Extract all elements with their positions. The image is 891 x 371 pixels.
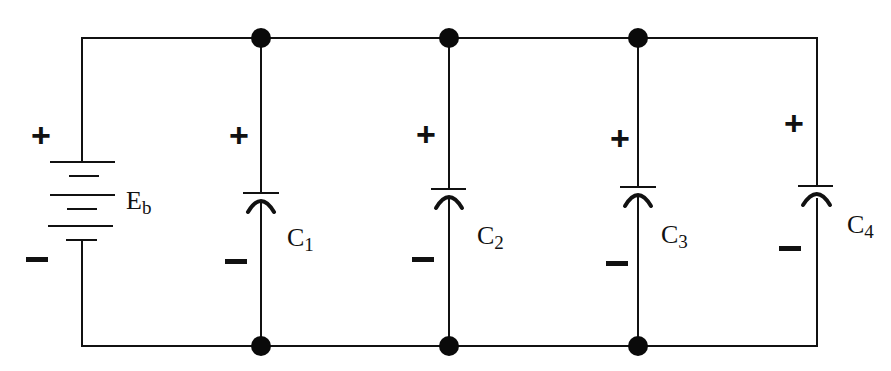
capacitor-c2-symbol [431, 38, 466, 346]
battery-plus-sign: + [31, 118, 51, 152]
c3-plus-sign: + [610, 121, 630, 155]
c2-label: C2 [477, 223, 504, 252]
c2-minus-sign [412, 257, 434, 262]
c1-minus-sign [225, 259, 247, 264]
battery-label: Eb [126, 188, 151, 217]
c2-plus-sign: + [416, 117, 436, 151]
battery-minus-sign [26, 257, 48, 262]
c3-minus-sign [606, 261, 628, 266]
c1-label: C1 [287, 225, 314, 254]
c1-plus-sign: + [229, 118, 249, 152]
node-bottom-2 [439, 336, 459, 356]
c3-label: C3 [661, 222, 688, 251]
node-top-3 [628, 28, 648, 48]
c4-plus-sign: + [784, 106, 804, 140]
c4-label: C4 [847, 212, 874, 241]
node-top-2 [439, 28, 459, 48]
node-bottom-3 [628, 336, 648, 356]
capacitor-c1-symbol [243, 38, 279, 346]
battery-symbol [48, 162, 115, 240]
c4-minus-sign [779, 246, 801, 251]
capacitor-c4-symbol [798, 186, 833, 205]
node-bottom-1 [251, 336, 271, 356]
node-top-1 [251, 28, 271, 48]
capacitor-c3-symbol [620, 38, 656, 346]
